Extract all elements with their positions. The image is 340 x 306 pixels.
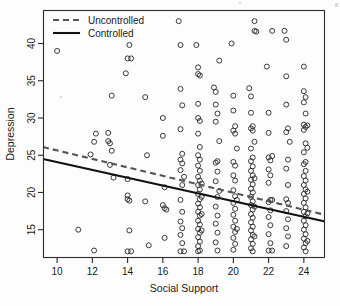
data-point — [178, 43, 183, 48]
data-point — [180, 183, 185, 188]
legend: Uncontrolled Controlled — [53, 15, 144, 39]
data-point — [301, 100, 306, 105]
data-point — [252, 19, 257, 24]
data-point — [231, 93, 236, 98]
data-point — [264, 64, 269, 69]
data-point — [178, 127, 183, 132]
data-point — [215, 111, 220, 116]
data-point — [213, 240, 218, 245]
data-point — [213, 221, 218, 226]
data-point — [180, 103, 185, 108]
data-point — [215, 169, 220, 174]
x-tick-label: 24 — [298, 266, 310, 277]
data-point — [178, 197, 183, 202]
data-point — [197, 157, 202, 162]
data-point — [303, 168, 308, 173]
x-tick-label: 10 — [52, 266, 64, 277]
data-point — [231, 212, 236, 217]
data-point — [284, 37, 289, 42]
data-point — [268, 241, 273, 246]
data-point — [196, 163, 201, 168]
data-point — [197, 145, 202, 150]
data-point — [213, 119, 218, 124]
data-point — [287, 139, 292, 144]
data-point — [266, 232, 271, 237]
data-point — [213, 204, 218, 209]
y-tick-label: 25 — [27, 149, 38, 161]
x-tick-label: 14 — [122, 266, 134, 277]
data-point — [213, 89, 218, 94]
data-point — [270, 248, 275, 253]
data-point — [176, 19, 181, 24]
data-point — [196, 65, 201, 70]
data-point — [284, 102, 289, 107]
data-point — [284, 244, 289, 249]
data-point — [143, 199, 148, 204]
data-point — [194, 43, 199, 48]
y-axis-title: Depression — [4, 107, 16, 160]
data-point — [180, 226, 185, 231]
data-point — [146, 243, 151, 248]
data-point — [285, 157, 290, 162]
x-axis-title: Social Support — [150, 282, 218, 294]
data-point — [231, 247, 236, 252]
data-point — [303, 111, 308, 116]
data-point — [233, 206, 238, 211]
data-point — [268, 173, 273, 178]
data-point — [76, 227, 81, 232]
data-point — [88, 152, 93, 157]
data-point — [93, 131, 98, 136]
x-tick-label: 18 — [193, 266, 205, 277]
data-point — [109, 93, 114, 98]
regression-line-uncontrolled — [43, 147, 325, 215]
data-point — [178, 168, 183, 173]
x-tick-label: 16 — [157, 266, 169, 277]
data-point — [284, 226, 289, 231]
data-point — [197, 168, 202, 173]
data-point — [266, 130, 271, 135]
data-point — [301, 89, 306, 94]
data-point — [182, 174, 187, 179]
data-point — [252, 139, 257, 144]
data-point — [231, 235, 236, 240]
plot-frame — [44, 11, 325, 258]
y-tick-label: 35 — [27, 75, 38, 87]
y-tick-label: 15 — [27, 224, 38, 236]
data-point — [285, 183, 290, 188]
data-point — [182, 249, 187, 254]
data-point — [180, 209, 185, 214]
x-tick-label: 20 — [228, 266, 240, 277]
data-point — [305, 145, 310, 150]
data-point — [180, 151, 185, 156]
x-axis: 1012141618202224 — [52, 258, 310, 277]
data-point — [162, 235, 167, 240]
data-point — [106, 130, 111, 135]
data-point — [215, 230, 220, 235]
x-tick-label: 22 — [263, 266, 275, 277]
x-tick-label: 12 — [87, 266, 99, 277]
y-tick-label: 30 — [27, 112, 38, 124]
data-point — [233, 178, 238, 183]
data-point — [266, 167, 271, 172]
data-point — [233, 241, 238, 246]
data-point — [213, 102, 218, 107]
data-point — [217, 58, 222, 63]
data-point — [247, 86, 252, 91]
data-point-layer — [55, 19, 310, 254]
data-point — [129, 249, 134, 254]
data-point — [234, 146, 239, 151]
regression-line-controlled — [43, 159, 325, 222]
data-point — [178, 219, 183, 224]
data-point — [215, 248, 220, 253]
data-point — [160, 115, 165, 120]
data-point — [231, 108, 236, 113]
data-point — [144, 153, 149, 158]
data-point — [123, 71, 128, 76]
chart-canvas: 1012141618202224 152025303540 Social Sup… — [0, 0, 340, 306]
data-point — [127, 228, 132, 233]
data-point — [282, 28, 287, 33]
data-point — [125, 56, 130, 61]
legend-label-controlled: Controlled — [88, 28, 134, 39]
data-point — [254, 29, 259, 34]
data-point — [55, 48, 60, 53]
